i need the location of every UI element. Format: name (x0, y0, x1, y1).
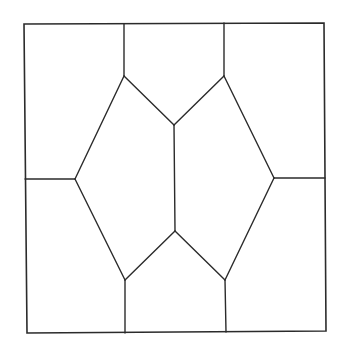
left-upper-slant-edge (75, 76, 124, 179)
edges-group (25, 23, 325, 333)
lower-left-diagonal-edge (125, 231, 175, 280)
tiling-diagram (0, 0, 344, 353)
upper-left-diagonal-edge (124, 76, 174, 125)
center-vertical-edge (174, 125, 175, 231)
left-lower-slant-edge (75, 179, 125, 280)
lower-right-diagonal-edge (175, 231, 225, 280)
upper-right-diagonal-edge (174, 76, 224, 125)
right-upper-slant-edge (224, 76, 274, 178)
bottom-right-vertical-edge (225, 280, 226, 332)
right-lower-slant-edge (225, 178, 274, 280)
